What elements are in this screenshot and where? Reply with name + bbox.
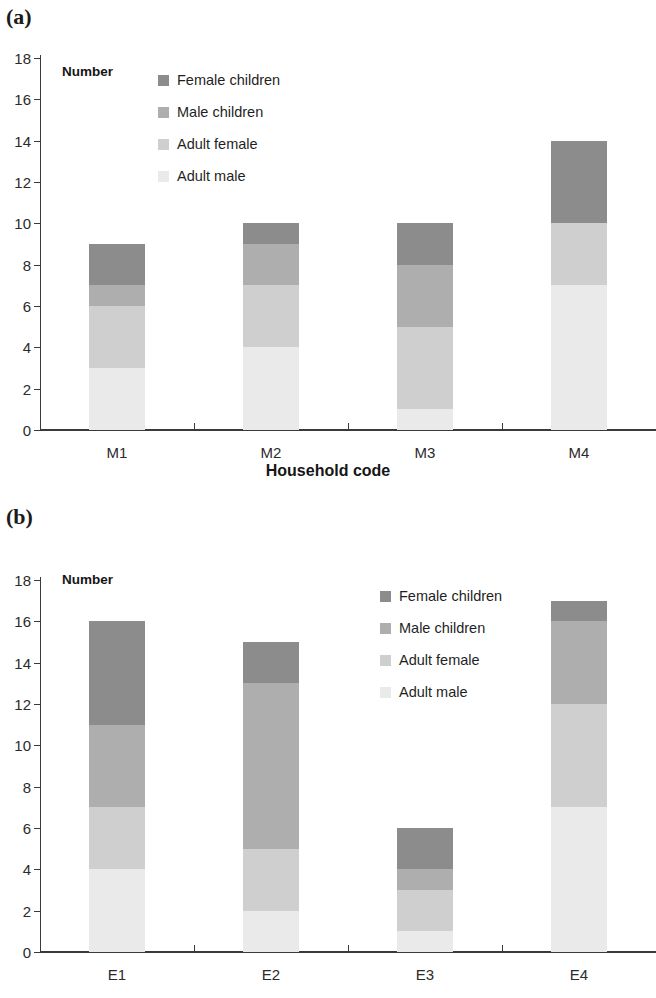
y-tick-label: 14 xyxy=(14,133,31,148)
legend-label: Male children xyxy=(399,620,485,636)
stacked-bar-e4[interactable] xyxy=(551,601,607,952)
legend-swatch-icon xyxy=(158,139,169,150)
bar-segment-adult-female[interactable] xyxy=(551,223,607,285)
legend-label: Adult male xyxy=(399,684,468,700)
bar-segment-female-children[interactable] xyxy=(89,244,145,285)
x-category-label-m3: M3 xyxy=(415,444,436,461)
y-tick-label: 16 xyxy=(14,92,31,107)
legend-item-adult-female[interactable]: Adult female xyxy=(380,644,502,676)
bar-segment-adult-male[interactable] xyxy=(551,807,607,952)
bar-segment-male-children[interactable] xyxy=(243,244,299,285)
y-tick-mark xyxy=(34,787,40,788)
bar-segment-adult-female[interactable] xyxy=(89,306,145,368)
y-tick-label: 2 xyxy=(23,381,31,396)
panel-a: (a) Number 024681012141618 M1M2M3M4 Fema… xyxy=(0,0,656,500)
legend-item-adult-male[interactable]: Adult male xyxy=(380,676,502,708)
bar-segment-adult-male[interactable] xyxy=(243,347,299,430)
bar-segment-female-children[interactable] xyxy=(551,601,607,622)
bar-segment-adult-female[interactable] xyxy=(397,327,453,410)
bar-segment-adult-male[interactable] xyxy=(551,285,607,430)
y-tick-mark xyxy=(34,306,40,307)
y-tick-label: 6 xyxy=(23,299,31,314)
stacked-bar-m2[interactable] xyxy=(243,223,299,430)
y-tick-mark xyxy=(34,265,40,266)
stacked-bar-m3[interactable] xyxy=(397,223,453,430)
bar-segment-adult-female[interactable] xyxy=(243,849,299,911)
y-tick-label: 4 xyxy=(23,340,31,355)
y-tick-mark xyxy=(34,828,40,829)
x-category-label-e2: E2 xyxy=(262,966,280,983)
bar-segment-male-children[interactable] xyxy=(89,725,145,808)
y-tick-label: 16 xyxy=(14,614,31,629)
bar-segment-adult-male[interactable] xyxy=(397,931,453,952)
bar-segment-male-children[interactable] xyxy=(397,869,453,890)
y-tick-label: 8 xyxy=(23,779,31,794)
y-tick-label: 18 xyxy=(14,573,31,588)
x-tick-mark xyxy=(40,423,41,431)
bar-segment-female-children[interactable] xyxy=(243,223,299,244)
legend-swatch-icon xyxy=(158,171,169,182)
bar-segment-adult-female[interactable] xyxy=(551,704,607,807)
legend-item-adult-male[interactable]: Adult male xyxy=(158,160,280,192)
y-tick-mark xyxy=(34,58,40,59)
x-tick-mark xyxy=(502,423,503,431)
x-tick-mark xyxy=(502,945,503,953)
bar-segment-female-children[interactable] xyxy=(551,141,607,224)
bar-segment-female-children[interactable] xyxy=(89,621,145,724)
legend-item-female-children[interactable]: Female children xyxy=(380,580,502,612)
legend-item-female-children[interactable]: Female children xyxy=(158,64,280,96)
x-tick-mark xyxy=(194,423,195,431)
y-tick-label: 14 xyxy=(14,655,31,670)
y-tick-label: 18 xyxy=(14,51,31,66)
stacked-bar-e3[interactable] xyxy=(397,828,453,952)
bar-segment-adult-female[interactable] xyxy=(397,890,453,931)
legend-item-adult-female[interactable]: Adult female xyxy=(158,128,280,160)
y-axis-line-a xyxy=(40,55,41,431)
x-category-label-e4: E4 xyxy=(570,966,588,983)
y-tick-label: 10 xyxy=(14,216,31,231)
stacked-bar-e2[interactable] xyxy=(243,642,299,952)
bar-segment-adult-female[interactable] xyxy=(243,285,299,347)
y-tick-mark xyxy=(34,99,40,100)
bar-segment-adult-male[interactable] xyxy=(243,911,299,952)
y-tick-mark xyxy=(34,389,40,390)
x-category-label-e3: E3 xyxy=(416,966,434,983)
plot-area-b: 024681012141618 E1E2E3E4 Female children… xyxy=(40,580,656,952)
y-tick-mark xyxy=(34,347,40,348)
y-tick-mark xyxy=(34,663,40,664)
bar-segment-male-children[interactable] xyxy=(551,621,607,704)
legend-label: Adult female xyxy=(399,652,480,668)
x-tick-mark xyxy=(348,945,349,953)
y-tick-label: 12 xyxy=(14,175,31,190)
bar-segment-female-children[interactable] xyxy=(243,642,299,683)
x-category-label-m4: M4 xyxy=(569,444,590,461)
bar-segment-adult-male[interactable] xyxy=(89,368,145,430)
stacked-bar-m4[interactable] xyxy=(551,141,607,430)
bar-segment-adult-male[interactable] xyxy=(397,409,453,430)
stacked-bar-m1[interactable] xyxy=(89,244,145,430)
panel-a-tag: (a) xyxy=(6,4,32,30)
bar-segment-male-children[interactable] xyxy=(89,285,145,306)
stacked-bar-e1[interactable] xyxy=(89,621,145,952)
legend-b: Female childrenMale childrenAdult female… xyxy=(380,580,502,708)
x-tick-mark xyxy=(40,945,41,953)
x-category-label-m2: M2 xyxy=(261,444,282,461)
bar-segment-female-children[interactable] xyxy=(397,223,453,264)
legend-item-male-children[interactable]: Male children xyxy=(158,96,280,128)
y-tick-label: 6 xyxy=(23,821,31,836)
legend-label: Female children xyxy=(399,588,502,604)
bar-segment-female-children[interactable] xyxy=(397,828,453,869)
bar-segment-male-children[interactable] xyxy=(243,683,299,848)
x-tick-mark xyxy=(194,945,195,953)
y-tick-mark xyxy=(34,580,40,581)
bar-segment-adult-female[interactable] xyxy=(89,807,145,869)
bar-segment-male-children[interactable] xyxy=(397,265,453,327)
legend-label: Adult female xyxy=(177,136,258,152)
y-tick-mark xyxy=(34,621,40,622)
y-tick-label: 4 xyxy=(23,862,31,877)
bar-segment-adult-male[interactable] xyxy=(89,869,145,952)
y-tick-label: 10 xyxy=(14,738,31,753)
legend-a: Female childrenMale childrenAdult female… xyxy=(158,64,280,192)
y-tick-mark xyxy=(34,745,40,746)
legend-item-male-children[interactable]: Male children xyxy=(380,612,502,644)
